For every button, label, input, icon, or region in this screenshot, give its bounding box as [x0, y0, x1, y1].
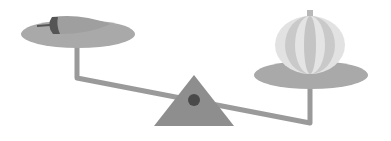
balance-scale-illustration — [0, 0, 391, 141]
pumpkin-icon — [275, 10, 345, 74]
pivot-icon — [188, 94, 200, 106]
